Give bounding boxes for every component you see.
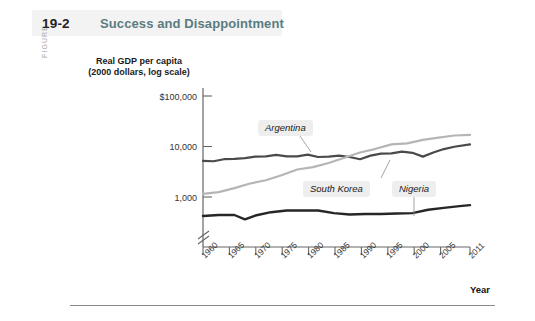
line-chart: $100,000 10,000 1,000 1960 1965 1970 <box>0 0 535 321</box>
y-tick-marks <box>203 96 212 197</box>
callout-nigeria: Nigeria <box>392 181 436 197</box>
x-tick-label-1965: 1965 <box>226 240 247 261</box>
footer-divider <box>70 305 495 306</box>
figure-page: FIGURE 19-2 Success and Disappointment R… <box>0 0 535 321</box>
x-tick-labels: 1960 1965 1970 1975 1980 1985 1990 1995 … <box>199 240 486 261</box>
y-tick-label-10000: 10,000 <box>169 142 197 152</box>
x-tick-label-1995: 1995 <box>384 240 405 261</box>
x-tick-label-1970: 1970 <box>252 240 273 261</box>
callout-argentina: Argentina <box>258 120 313 136</box>
y-tick-label-1000: 1,000 <box>174 193 197 203</box>
leader-line-south-korea <box>381 160 390 178</box>
x-tick-label-1980: 1980 <box>305 240 326 261</box>
y-tick-label-100000: $100,000 <box>159 92 197 102</box>
x-tick-label-1975: 1975 <box>279 240 300 261</box>
x-tick-label-1985: 1985 <box>331 240 352 261</box>
series-line-argentina <box>203 144 470 161</box>
x-tick-label-2000: 2000 <box>411 240 432 261</box>
callout-south-korea: South Korea <box>303 181 370 197</box>
x-tick-label-2011: 2011 <box>466 240 486 260</box>
x-tick-label-2005: 2005 <box>437 240 458 261</box>
x-axis-title: Year <box>470 284 490 295</box>
x-tick-label-1990: 1990 <box>358 240 379 261</box>
series-line-nigeria <box>203 205 470 219</box>
leader-line-argentina <box>300 136 311 152</box>
